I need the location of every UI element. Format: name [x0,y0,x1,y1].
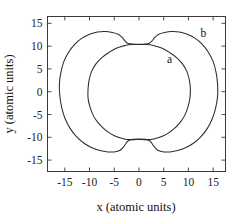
x-axis-tick-labels: -15-10-5051015 [57,176,219,188]
x-tick-label: 10 [183,176,195,188]
plot-canvas: -15-10-5051015 -15-10-5051015 ab x (atom… [0,0,240,221]
x-tick-label: 5 [161,176,167,188]
figure-root: -15-10-5051015 -15-10-5051015 ab x (atom… [0,0,240,221]
x-tick-label: 15 [207,176,219,188]
y-tick-label: -5 [33,109,43,121]
curve-label-a: a [167,53,172,65]
y-tick-label: -15 [27,154,43,166]
y-tick-label: 0 [37,86,43,98]
x-tick-label: -5 [109,176,119,188]
y-tick-label: 10 [31,40,43,52]
plot-frame [48,17,226,172]
contour-curve-a [88,45,191,140]
curve-annotations: ab [167,27,206,64]
contour-curve-b [59,32,217,153]
x-axis-ticks [65,17,213,172]
curve-label-b: b [200,27,206,39]
x-tick-label: -10 [82,176,98,188]
x-tick-label: 0 [136,176,142,188]
y-tick-label: -10 [27,131,43,143]
y-tick-label: 15 [31,17,43,29]
y-axis-title: y (atomic units) [2,54,16,133]
x-axis-title: x (atomic units) [96,200,175,214]
y-axis-tick-labels: -15-10-5051015 [27,17,43,166]
x-tick-label: -15 [57,176,73,188]
y-tick-label: 5 [37,63,43,75]
